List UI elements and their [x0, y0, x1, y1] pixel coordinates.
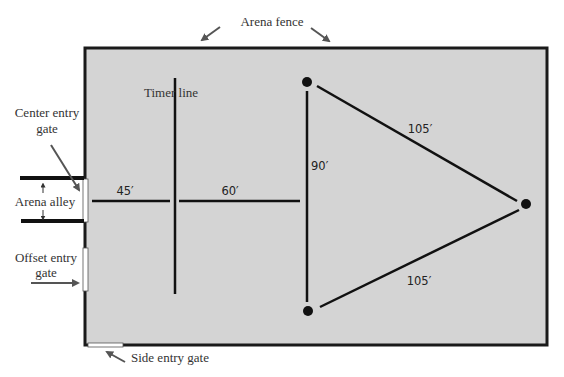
dimension-105-top: 105′	[408, 122, 433, 136]
center-entry-gate-label-1: Center entry	[15, 105, 80, 120]
offset-entry-gate[interactable]	[83, 248, 88, 291]
barrel-1	[302, 77, 312, 87]
offset-entry-gate-label-2: gate	[35, 265, 57, 280]
dimension-60: 60′	[221, 184, 239, 198]
side-entry-gate-label: Side entry gate	[131, 350, 209, 365]
arena-fence-arrow-left	[202, 27, 220, 40]
center-entry-gate[interactable]	[83, 179, 88, 222]
center-entry-gate-label-2: gate	[36, 121, 58, 136]
offset-entry-gate-label-1: Offset entry	[15, 250, 78, 265]
side-entry-gate[interactable]	[88, 343, 123, 347]
arena-diagram: 45′ 60′ 90′ 105′ 105′ Arena fence Timer …	[0, 0, 564, 377]
side-entry-gate-arrow	[107, 352, 125, 362]
center-entry-gate-arrow	[51, 145, 79, 190]
arena-fence-arrow-right	[311, 28, 329, 41]
barrel-2	[303, 306, 313, 316]
timer-line-label: Timer line	[144, 85, 198, 100]
dimension-105-bottom: 105′	[407, 274, 432, 288]
dimension-90: 90′	[311, 159, 329, 173]
dimension-45: 45′	[116, 184, 134, 198]
arena-fence-label: Arena fence	[240, 14, 303, 29]
barrel-3	[521, 199, 531, 209]
arena-alley-label: Arena alley	[15, 194, 76, 209]
